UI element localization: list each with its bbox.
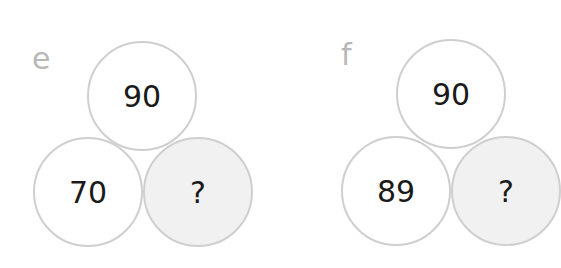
circle-value: 70 bbox=[69, 175, 107, 210]
circle-bottom-right-e-unknown: ? bbox=[143, 137, 253, 247]
circle-bottom-right-f-unknown: ? bbox=[451, 136, 561, 246]
circle-value: ? bbox=[498, 174, 514, 209]
panel-label-f: f bbox=[341, 40, 352, 70]
panel-label-e: e bbox=[32, 44, 50, 74]
circle-bottom-left-f: 89 bbox=[341, 136, 451, 246]
circle-value: 90 bbox=[123, 79, 161, 114]
circle-top-f: 90 bbox=[396, 39, 506, 149]
circle-value: ? bbox=[190, 175, 206, 210]
circle-value: 90 bbox=[432, 77, 470, 112]
circle-bottom-left-e: 70 bbox=[33, 137, 143, 247]
circle-value: 89 bbox=[377, 174, 415, 209]
circle-top-e: 90 bbox=[87, 41, 197, 151]
